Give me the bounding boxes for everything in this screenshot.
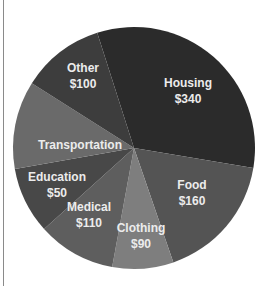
pie-chart: Housing$340Food$160Clothing$90Medical$11…: [0, 0, 265, 286]
slice-label-food: Food: [177, 178, 206, 192]
slice-label-education: Education: [28, 170, 86, 184]
slice-value-other: $100: [70, 77, 97, 91]
slice-value-medical: $110: [76, 216, 102, 230]
slice-label-medical: Medical: [67, 200, 111, 214]
slice-value-housing: $340: [175, 92, 202, 106]
slice-value-food: $160: [179, 194, 206, 208]
slice-value-clothing: $90: [131, 237, 151, 251]
slice-label-housing: Housing: [164, 76, 212, 90]
slice-label-clothing: Clothing: [117, 221, 166, 235]
slice-label-transportation: Transportation: [38, 138, 122, 152]
slice-value-education: $50: [47, 186, 67, 200]
slice-label-other: Other: [67, 61, 99, 75]
